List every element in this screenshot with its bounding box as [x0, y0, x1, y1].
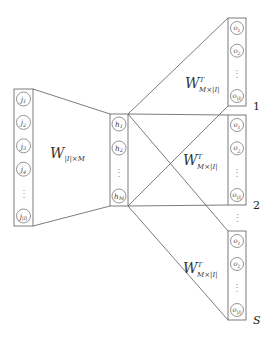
edge-hidden-output-3-bottom [128, 206, 228, 320]
output-3-node-1: o1 [231, 235, 244, 248]
output-3-node-3: ⋮ [232, 282, 242, 293]
ellipsis: ⋮ [232, 167, 242, 178]
edge-hidden-output-2-bottom [128, 205, 228, 206]
input-node-6: j|I| [17, 209, 31, 223]
output-weight-label-2: WTM×|I| [183, 152, 218, 171]
hidden-node-4: hM [112, 189, 126, 203]
edge-hidden-output-1-top [128, 18, 228, 114]
output-2-node-2: o2 [231, 142, 244, 155]
output-block-label: S [253, 314, 261, 327]
between-blocks-ellipsis: ⋮ [232, 212, 243, 225]
edge-hidden-output-2-top [128, 114, 228, 115]
input-layer-box [14, 89, 33, 226]
input-node-3: j3 [17, 139, 31, 153]
input-weight-label: W|I|×M [50, 145, 86, 163]
output-1-node-1: o1 [231, 22, 244, 35]
input-node-4: j4 [17, 162, 31, 176]
edge-hidden-output-1-bottom [128, 106, 228, 206]
edge-hidden-output-3-top [128, 114, 228, 231]
input-node-1: j1 [17, 92, 31, 106]
hidden-node-3: ⋮ [114, 167, 124, 178]
output-weight-label-s: WTM×|I| [183, 260, 218, 279]
ellipsis: ⋮ [114, 167, 124, 178]
output-1-node-2: o2 [231, 44, 244, 57]
output-2-node-4: o|I| [231, 189, 244, 202]
output-2-node-3: ⋮ [232, 167, 242, 178]
ellipsis: ⋮ [19, 188, 29, 199]
ellipsis: ⋮ [232, 68, 242, 79]
ellipsis: ⋮ [232, 282, 242, 293]
output-1-node-4: o|I| [231, 90, 244, 103]
hidden-node-2: h2 [112, 141, 126, 155]
edge-input-hidden-top [33, 89, 110, 114]
network-diagram: j1j2j3j4⋮j|I|h1h2⋮hMo1o2⋮o|I|o1o2⋮o|I|o1… [0, 0, 275, 340]
output-1-node-3: ⋮ [232, 68, 242, 79]
hidden-node-1: h1 [112, 117, 126, 131]
output-block-label: 1 [253, 100, 260, 113]
output-3-node-4: o|I| [231, 304, 244, 317]
output-2-node-1: o1 [231, 119, 244, 132]
input-node-5: ⋮ [19, 188, 29, 199]
output-block-label: 2 [253, 199, 260, 212]
output-3-node-2: o2 [231, 258, 244, 271]
input-node-2: j2 [17, 115, 31, 129]
output-weight-label-1: WTM×|I| [185, 75, 220, 94]
edge-input-hidden-bottom [33, 206, 110, 226]
